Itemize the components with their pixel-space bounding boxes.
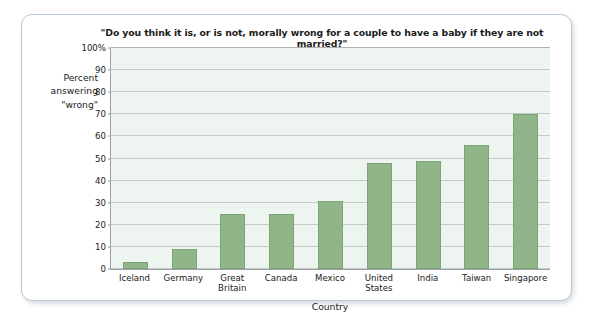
chart-title: "Do you think it is, or is not, morally … <box>82 27 562 49</box>
bars-layer <box>111 48 550 269</box>
x-axis-label-taiwan: Taiwan <box>452 273 501 294</box>
bar-united-states <box>367 163 392 269</box>
y-axis-tick-label: 70 <box>95 109 106 119</box>
x-axis-label-canada: Canada <box>257 273 306 294</box>
bar-slot <box>257 48 306 269</box>
x-axis-label-india: India <box>403 273 452 294</box>
x-axis-labels: IcelandGermanyGreat BritainCanadaMexicoU… <box>110 273 550 294</box>
bar-india <box>416 161 441 269</box>
figure-card: "Do you think it is, or is not, morally … <box>21 14 572 301</box>
y-axis-tick-label: 30 <box>95 198 106 208</box>
x-axis-label-iceland: Iceland <box>110 273 159 294</box>
y-axis-caption-line-1: Percent <box>26 71 98 84</box>
x-axis-label-united-states: United States <box>354 273 403 294</box>
bar-singapore <box>513 114 538 269</box>
y-axis-caption: Percent answering "wrong" <box>26 71 98 111</box>
bar-slot <box>501 48 550 269</box>
plot-wrapper: 0102030405060708090100% <box>110 48 550 270</box>
x-axis-label-germany: Germany <box>159 273 208 294</box>
bar-slot <box>160 48 209 269</box>
y-axis-caption-line-3: "wrong" <box>26 98 98 111</box>
bar-great-britain <box>220 214 245 269</box>
bar-slot <box>404 48 453 269</box>
bar-iceland <box>123 262 148 269</box>
bar-germany <box>172 249 197 269</box>
x-axis-caption: Country <box>110 301 550 312</box>
plot-area: 0102030405060708090100% <box>110 48 550 270</box>
x-axis-label-singapore: Singapore <box>501 273 550 294</box>
y-axis-caption-line-2: answering <box>26 84 98 97</box>
y-axis-tick-label: 80 <box>95 87 106 97</box>
x-axis-label-great-britain: Great Britain <box>208 273 257 294</box>
y-axis-tick-label: 90 <box>95 65 106 75</box>
y-axis-tick-label: 20 <box>95 220 106 230</box>
y-axis-tick-label: 50 <box>95 154 106 164</box>
bar-canada <box>269 214 294 269</box>
bar-slot <box>306 48 355 269</box>
y-axis-tick-label: 40 <box>95 176 106 186</box>
y-axis-tick-label: 60 <box>95 131 106 141</box>
y-axis-tick-label: 100% <box>81 43 106 53</box>
bar-slot <box>355 48 404 269</box>
y-axis-tick-label: 10 <box>95 242 106 252</box>
y-axis-tick-label: 0 <box>101 264 106 274</box>
bar-taiwan <box>464 145 489 269</box>
bar-slot <box>452 48 501 269</box>
x-axis-label-mexico: Mexico <box>306 273 355 294</box>
bar-slot <box>209 48 258 269</box>
bar-mexico <box>318 201 343 270</box>
bar-slot <box>111 48 160 269</box>
